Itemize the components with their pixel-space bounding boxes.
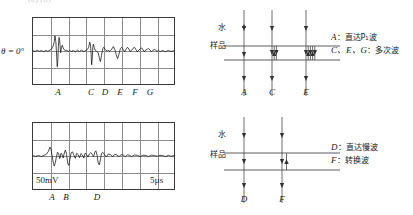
legend-entry-CEG: C、E、G：多次波 <box>331 46 399 55</box>
cropped-header-text: (a) (b) <box>28 0 51 4</box>
ray-diagram-top <box>214 8 344 98</box>
voltage-scale-label: 50mV <box>36 176 59 185</box>
legend-entry-F: F：转换波 <box>331 156 369 165</box>
axis-letter-F-top: F <box>128 88 142 97</box>
axis-letter-C-top: C <box>84 88 98 97</box>
axis-letter-D-bottom: D <box>90 193 104 202</box>
axis-letter-E-top: E <box>113 88 127 97</box>
ray-letter-D-bottom: D <box>237 195 251 204</box>
legend-entry-A: A：直达P₁波 <box>331 33 377 42</box>
axis-letter-A-top: A <box>51 88 65 97</box>
legend-text-CEG: 多次波 <box>375 46 399 55</box>
medium-label-water-top: 水 <box>218 24 226 32</box>
theta-angle-label: θ = 0° <box>1 47 24 56</box>
medium-label-water-bottom: 水 <box>218 131 226 139</box>
legend-colon-D: ： <box>338 143 346 152</box>
legend-entry-D: D：直达慢波 <box>331 143 378 152</box>
ray-letter-F-bottom: F <box>275 195 289 204</box>
axis-letter-B-bottom: B <box>59 193 73 202</box>
waveform-trace-top <box>33 18 174 84</box>
ray-letter-C-top: C <box>265 88 279 97</box>
medium-label-sample-top: 样品 <box>210 42 226 50</box>
figure-root: (a) (b) θ = 0° A C D E F G <box>0 0 413 215</box>
oscilloscope-panel-top <box>32 17 175 85</box>
legend-text-D: 直达慢波 <box>346 143 378 152</box>
legend-symbol-CEG: C、E、G <box>331 45 367 55</box>
axis-letter-D-top: D <box>98 88 112 97</box>
legend-colon-CEG: ： <box>367 46 375 55</box>
ray-letter-A-top: A <box>237 88 251 97</box>
medium-label-sample-bottom: 样品 <box>210 151 226 159</box>
axis-letter-G-top: G <box>143 88 157 97</box>
cropped-header-artifact: (a) (b) <box>28 0 100 5</box>
axis-letter-A-bottom: A <box>45 193 59 202</box>
legend-colon-F: ： <box>337 156 345 165</box>
legend-text-A: 直达P₁波 <box>345 33 377 42</box>
time-scale-label: 5µs <box>150 176 163 185</box>
ray-diagram-bottom <box>214 115 344 205</box>
legend-colon-A: ： <box>337 33 345 42</box>
legend-text-F: 转换波 <box>345 156 369 165</box>
ray-letter-E-top: E <box>299 88 313 97</box>
